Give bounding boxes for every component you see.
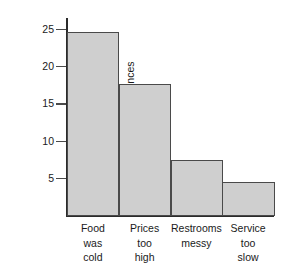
bar-chart: Number of occurrences 510152025 Foodwasc… <box>0 0 287 269</box>
x-axis-category-label-line: too <box>119 236 171 251</box>
bar <box>171 160 223 216</box>
bar <box>119 84 171 216</box>
x-axis-category-label: Foodwascold <box>67 221 119 265</box>
y-tick-label: 10 <box>14 136 54 147</box>
y-tick-mark <box>56 66 66 67</box>
x-axis-category-label-line: Restrooms <box>171 221 223 236</box>
x-axis-category-label-line: Service <box>222 221 274 236</box>
bar <box>222 182 274 216</box>
x-axis-category-label-line: cold <box>67 250 119 265</box>
y-tick-mark <box>56 29 66 30</box>
x-axis-category-labels: FoodwascoldPricestoohighRestroomsmessySe… <box>67 221 274 267</box>
x-axis-category-label-line: Food <box>67 221 119 236</box>
x-axis-category-label-line: high <box>119 250 171 265</box>
y-tick-mark <box>56 178 66 179</box>
y-tick-label: 5 <box>14 173 54 184</box>
y-tick-label: 20 <box>14 61 54 72</box>
x-axis-category-label: Restroomsmessy <box>171 221 223 250</box>
y-tick-label: 15 <box>14 98 54 109</box>
x-axis-category-label-line: Prices <box>119 221 171 236</box>
x-axis-category-label-line: was <box>67 236 119 251</box>
x-axis-category-label: Pricestoohigh <box>119 221 171 265</box>
bars-layer <box>67 18 274 216</box>
bar <box>67 32 119 216</box>
y-tick-mark <box>56 141 66 142</box>
x-axis-category-label-line: slow <box>222 250 274 265</box>
x-axis-category-label: Servicetooslow <box>222 221 274 265</box>
x-axis-category-label-line: messy <box>171 236 223 251</box>
y-tick-mark <box>56 103 66 104</box>
x-axis-category-label-line: too <box>222 236 274 251</box>
y-tick-label: 25 <box>14 24 54 35</box>
